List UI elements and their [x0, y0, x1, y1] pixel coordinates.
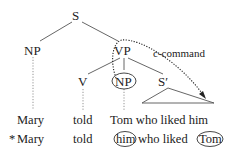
word-mary: Mary — [17, 113, 45, 127]
node-np-object: NP — [115, 74, 132, 89]
c-command-label: c-command — [153, 47, 205, 59]
ungrammatical-marker: * — [9, 132, 15, 146]
sentence-1: Mary told Tom who liked him — [17, 113, 208, 127]
node-sbar: S′ — [158, 74, 168, 89]
branch-vp-sbar — [128, 58, 163, 74]
word-told: told — [73, 132, 93, 146]
branch-s-np — [40, 22, 72, 41]
word-told: told — [73, 113, 93, 127]
tree-branches — [40, 22, 214, 103]
node-np-subject: NP — [24, 43, 41, 58]
node-v: V — [78, 74, 88, 89]
node-vp: VP — [114, 43, 131, 58]
syntax-tree-diagram: S NP VP V NP S′ c-command Mary told Tom … — [0, 0, 242, 156]
word-who-liked: who liked — [138, 132, 188, 146]
branch-s-vp — [82, 22, 118, 41]
word-tom: Tom — [199, 132, 222, 146]
arrowhead-icon — [199, 91, 206, 99]
word-mary: Mary — [17, 132, 45, 146]
sentence-2: * Mary told him who liked Tom — [9, 132, 223, 147]
branch-vp-v — [88, 58, 120, 74]
node-s: S — [72, 8, 79, 23]
word-rest: Tom who liked him — [110, 113, 208, 127]
